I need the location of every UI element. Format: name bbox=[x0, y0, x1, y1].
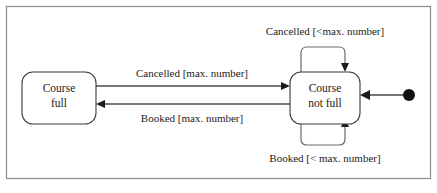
initial-state-transition[interactable] bbox=[360, 89, 415, 101]
transition-notfull-self-booked[interactable]: Booked [< max. number] bbox=[269, 118, 380, 164]
transition-notfull-to-full[interactable]: Booked [max. number] bbox=[96, 100, 290, 124]
state-course-full[interactable]: Course full bbox=[22, 72, 96, 124]
transition-notfull-self-cancelled[interactable]: Cancelled [<max. number] bbox=[266, 25, 384, 72]
state-course-not-full-label-line1: Course bbox=[309, 82, 342, 94]
state-course-not-full-label-line2: not full bbox=[308, 97, 342, 109]
state-course-full-label-line2: full bbox=[51, 97, 67, 109]
state-diagram-canvas: Cancelled [max. number] Booked [max. num… bbox=[0, 0, 437, 193]
arrowhead-initial bbox=[360, 90, 370, 100]
self-loop-top-path bbox=[301, 47, 345, 72]
transition-full-to-notfull[interactable]: Cancelled [max. number] bbox=[96, 67, 290, 90]
arrowhead-down bbox=[341, 63, 349, 72]
initial-state-dot bbox=[403, 89, 415, 101]
arrowhead-left bbox=[96, 100, 105, 108]
transition-full-to-notfull-label: Cancelled [max. number] bbox=[136, 67, 248, 79]
transition-self-booked-label: Booked [< max. number] bbox=[269, 152, 380, 164]
state-course-not-full[interactable]: Course not full bbox=[290, 72, 360, 124]
state-course-full-label-line1: Course bbox=[43, 82, 76, 94]
transition-self-cancelled-label: Cancelled [<max. number] bbox=[266, 25, 384, 37]
arrowhead-right bbox=[281, 82, 290, 90]
transition-notfull-to-full-label: Booked [max. number] bbox=[141, 112, 243, 124]
state-diagram-svg: Cancelled [max. number] Booked [max. num… bbox=[0, 0, 437, 193]
